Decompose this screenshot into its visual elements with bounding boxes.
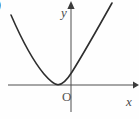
y-axis-label: y — [59, 5, 67, 20]
figure-canvas: y x O — [0, 0, 139, 119]
x-axis-arrow-icon — [133, 81, 139, 88]
parabola-figure: ) y x O — [0, 0, 139, 119]
x-axis-label: x — [125, 94, 132, 109]
origin-label: O — [62, 89, 71, 104]
y-axis-arrow-icon — [67, 1, 74, 9]
